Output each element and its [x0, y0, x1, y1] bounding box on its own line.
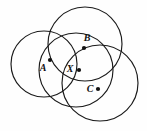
geometry-figure: A B X C: [0, 0, 147, 131]
point-label-A: A: [39, 62, 47, 73]
circle-top: [48, 7, 122, 81]
point-dot-B: [82, 46, 86, 50]
point-label-C: C: [87, 83, 94, 94]
point-label-B: B: [83, 32, 91, 43]
point-dot-A: [48, 58, 52, 62]
circles-diagram-canvas: A B X C: [0, 0, 147, 131]
point-label-X: X: [66, 63, 74, 74]
point-dot-C: [96, 87, 100, 91]
point-dot-X: [77, 68, 81, 72]
circle-bottom-right: [62, 45, 138, 121]
